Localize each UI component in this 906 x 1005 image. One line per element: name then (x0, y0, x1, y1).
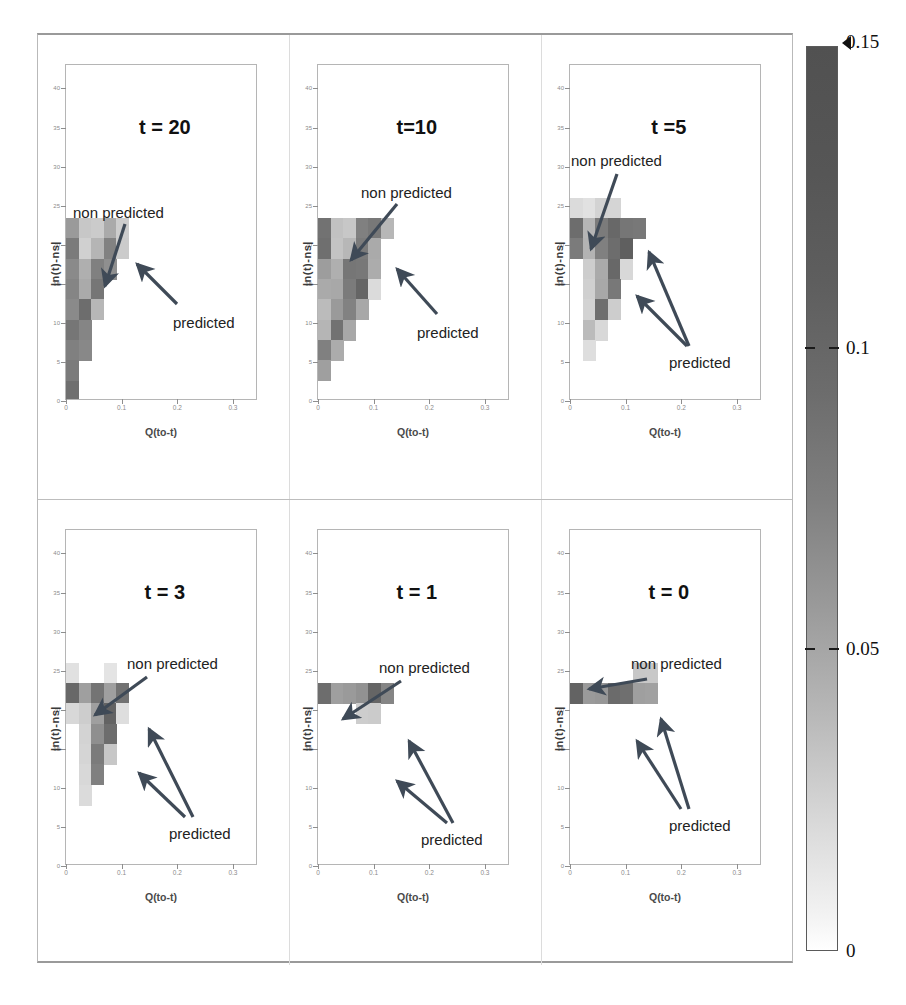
heatmap-cell (331, 279, 344, 300)
heatmap-cell (368, 218, 381, 239)
heatmap-cell (633, 683, 646, 704)
x-axis-label: Q(to-t) (145, 891, 177, 903)
colorbar-container: 0.150.10.050 (806, 46, 838, 951)
heatmap-cell (608, 279, 621, 300)
heatmap-cell (66, 218, 79, 239)
heatmap-cell (318, 238, 331, 259)
annotation-predicted: predicted (421, 831, 483, 848)
annotation-predicted: predicted (173, 314, 235, 331)
probability-colorbar[interactable] (806, 46, 838, 951)
heatmap-cell (583, 320, 596, 341)
heatmap-cell (91, 683, 104, 704)
y-axis-tick (565, 749, 570, 750)
heatmap-cell (331, 238, 344, 259)
y-axis-tick (313, 749, 318, 750)
x-axis-tick-label: 0.3 (732, 869, 741, 876)
heatmap-cell (79, 218, 92, 239)
y-axis-tick-label: 25 (305, 203, 312, 209)
y-axis-tick-label: 5 (561, 824, 564, 830)
y-axis-tick (565, 88, 570, 89)
heatmap-cell (583, 198, 596, 219)
heatmap-cell (343, 299, 356, 320)
heatmap-cell (368, 279, 381, 300)
y-axis-tick (61, 593, 66, 594)
heatmap-cell (91, 703, 104, 724)
panel-title: t=10 (397, 116, 438, 139)
heatmap-cell (66, 360, 79, 381)
y-axis-tick-label: 35 (53, 125, 60, 131)
y-axis-tick (61, 788, 66, 789)
heatmap-cell (79, 744, 92, 765)
heatmap-cell (91, 724, 104, 745)
heatmap-cell (318, 340, 331, 361)
y-axis-tick-label: 0 (309, 398, 312, 404)
x-axis-tick-label: 0.1 (621, 869, 630, 876)
heatmap-cell (318, 320, 331, 341)
y-axis-tick (565, 362, 570, 363)
x-axis-tick-label: 0.3 (228, 404, 237, 411)
heatmap-cell (318, 218, 331, 239)
y-axis-tick (61, 749, 66, 750)
x-axis-label: Q(to-t) (397, 891, 429, 903)
y-axis-tick-label: 30 (557, 629, 564, 635)
x-axis-label: Q(to-t) (145, 426, 177, 438)
y-axis-tick-label: 40 (557, 85, 564, 91)
y-axis-tick (313, 710, 318, 711)
heatmap-cell (595, 299, 608, 320)
y-axis-tick (61, 128, 66, 129)
heatmap-cell (368, 259, 381, 280)
y-axis-tick-label: 0 (57, 863, 60, 869)
x-axis-tick-label: 0.1 (117, 404, 126, 411)
y-axis-tick (313, 553, 318, 554)
annotation-non-predicted: non predicted (127, 655, 218, 672)
x-axis-tick-label: 0.3 (732, 404, 741, 411)
y-axis-tick-label: 40 (53, 85, 60, 91)
y-axis-tick (61, 710, 66, 711)
y-axis-tick-label: 10 (557, 785, 564, 791)
heatmap-cell (79, 259, 92, 280)
y-axis-tick (61, 553, 66, 554)
y-axis-tick (313, 284, 318, 285)
heatmap-cell (583, 218, 596, 239)
heatmap-cell (331, 218, 344, 239)
y-axis-tick (565, 167, 570, 168)
annotation-predicted: predicted (169, 825, 231, 842)
y-axis-tick-label: 40 (305, 85, 312, 91)
heatmap-cell (583, 238, 596, 259)
heatmap-cell (595, 279, 608, 300)
y-axis-tick-label: 10 (557, 320, 564, 326)
y-axis-label: |n(t)-ns| (553, 706, 565, 751)
x-axis-tick-label: 0 (64, 404, 68, 411)
y-axis-tick (313, 632, 318, 633)
heatmap-cell (608, 218, 621, 239)
annotation-non-predicted: non predicted (73, 204, 164, 221)
heatmap-cell (318, 683, 331, 704)
heatmap-cell (356, 299, 369, 320)
heatmap-cell (368, 703, 381, 724)
y-axis-label: |n(t)-ns| (49, 706, 61, 751)
y-axis-tick-label: 30 (557, 164, 564, 170)
colorbar-tick-mark (805, 648, 815, 650)
heatmap-cell (595, 320, 608, 341)
x-axis-tick-label: 0.1 (621, 404, 630, 411)
y-axis-tick-label: 25 (53, 668, 60, 674)
heatmap-cell (608, 259, 621, 280)
heatmap-cell (633, 218, 646, 239)
heatmap-cell (608, 683, 621, 704)
y-axis-tick (565, 206, 570, 207)
plot-axes: 403530252015105000.10.20.3 (65, 64, 257, 400)
colorbar-tick-label: 0 (846, 940, 856, 962)
y-axis-tick-label: 5 (57, 824, 60, 830)
heatmap-cell (356, 279, 369, 300)
panel-t1: 403530252015105000.10.20.3|n(t)-ns|Q(to-… (289, 498, 541, 963)
panel-t3: 403530252015105000.10.20.3|n(t)-ns|Q(to-… (37, 498, 289, 963)
heatmap-cell (104, 744, 117, 765)
heatmap-cell (79, 299, 92, 320)
y-axis-tick-label: 10 (305, 785, 312, 791)
x-axis-label: Q(to-t) (649, 891, 681, 903)
heatmap-cell (331, 259, 344, 280)
heatmap-cell (595, 259, 608, 280)
heatmap-cell (116, 683, 129, 704)
heatmap-cell (570, 683, 583, 704)
y-axis-label: |n(t)-ns| (301, 706, 313, 751)
